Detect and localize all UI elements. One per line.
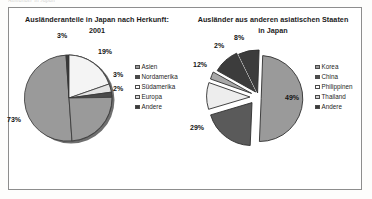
legend-swatch-icon-thailand	[315, 95, 320, 100]
chart-panel-right: Ausländer aus anderen asiatischen Staate…	[185, 8, 361, 189]
legend-item-asien[interactable]: Asien	[135, 62, 178, 72]
chart-panel-left: Ausländeranteile in Japan nach Herkunft:…	[9, 8, 185, 189]
plot-area-left: 3% 19% 3% 2% 73% Asien Nordamerika	[9, 38, 185, 185]
legend-item-andere-left[interactable]: Andere	[135, 102, 178, 112]
pie-slice-china	[211, 103, 252, 146]
legend-label-nordamerika: Nordamerika	[142, 73, 178, 80]
legend-label-thailand: Thailand	[322, 93, 346, 100]
legend-label-andere-right: Andere	[322, 103, 342, 110]
legend-swatch-icon-europa	[135, 95, 140, 100]
legend-swatch-icon-asien	[135, 65, 140, 70]
legend-swatch-icon-andere-left	[135, 105, 140, 110]
pie-slices-left	[24, 55, 112, 141]
legend-item-philippinen[interactable]: Philippinen	[315, 82, 353, 92]
pie-label-right-philippinen: 12%	[193, 61, 207, 68]
pie-svg-left	[11, 38, 129, 156]
legend-swatch-icon-nordamerika	[135, 75, 140, 80]
legend-left: Asien Nordamerika Südamerika Europa	[135, 62, 178, 112]
legend-label-asien: Asien	[142, 63, 158, 70]
chart-panels: Ausländeranteile in Japan nach Herkunft:…	[9, 8, 361, 189]
legend-label-china: China	[322, 73, 339, 80]
legend-item-thailand[interactable]: Thailand	[315, 92, 353, 102]
legend-swatch-icon-philippinen	[315, 85, 320, 90]
pie-chart-right	[199, 38, 317, 156]
legend-item-nordamerika[interactable]: Nordamerika	[135, 72, 178, 82]
legend-label-europa: Europa	[142, 93, 162, 100]
legend-swatch-icon-china	[315, 75, 320, 80]
chart-title-right: Ausländer aus anderen asiatischen Staate…	[185, 14, 361, 36]
chart-title-left: Ausländeranteile in Japan nach Herkunft:…	[9, 14, 185, 36]
pie-slice-asien-lower	[69, 97, 112, 141]
legend-swatch-icon-suedamerika	[135, 85, 140, 90]
legend-label-philippinen: Philippinen	[322, 83, 353, 90]
running-head: Ausländer in Japan	[8, 0, 308, 5]
legend-swatch-icon-korea	[315, 65, 320, 70]
scanned-page: Ausländer in Japan Ausländeranteile in J…	[0, 0, 372, 199]
pie-label-left-suedamerika: 3%	[113, 71, 123, 78]
pie-label-right-thailand: 2%	[214, 42, 224, 49]
legend-swatch-icon-andere-right	[315, 105, 320, 110]
legend-label-andere-left: Andere	[142, 103, 162, 110]
pie-chart-left	[11, 38, 129, 156]
pie-label-right-andere: 8%	[234, 34, 244, 41]
legend-label-korea: Korea	[322, 63, 339, 70]
pie-label-left-nordamerika: 2%	[113, 85, 123, 92]
legend-item-andere-right[interactable]: Andere	[315, 102, 353, 112]
legend-item-europa[interactable]: Europa	[135, 92, 178, 102]
pie-label-right-china: 29%	[190, 124, 204, 131]
pie-svg-right	[199, 38, 317, 156]
figure-frame: Ausländeranteile in Japan nach Herkunft:…	[8, 7, 362, 190]
plot-area-right: 8% 2% 12% 49% 29% Korea China	[185, 38, 361, 185]
legend-item-suedamerika[interactable]: Südamerika	[135, 82, 178, 92]
legend-right: Korea China Philippinen Thailand	[315, 62, 353, 112]
legend-item-korea[interactable]: Korea	[315, 62, 353, 72]
legend-item-china[interactable]: China	[315, 72, 353, 82]
pie-slice-china-group	[211, 103, 252, 146]
pie-label-left-asien: 73%	[7, 116, 21, 123]
pie-label-right-korea: 49%	[285, 94, 299, 101]
pie-slice-asien	[24, 55, 72, 141]
pie-label-left-andere: 3%	[57, 32, 67, 39]
legend-label-suedamerika: Südamerika	[142, 83, 176, 90]
pie-label-left-europa: 19%	[98, 48, 112, 55]
